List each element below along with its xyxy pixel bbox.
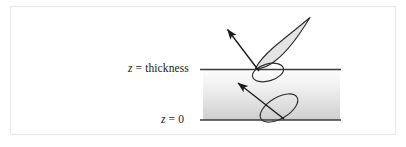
label-z-zero-variable: z — [161, 113, 166, 125]
medium-slab — [203, 70, 340, 121]
figure-container: z = thickness z = 0 — [0, 0, 406, 147]
label-z-zero-operator: = — [169, 113, 176, 125]
label-z-zero-value: 0 — [178, 113, 184, 125]
label-z-thickness-value: thickness — [145, 62, 189, 74]
label-z-thickness-operator: = — [136, 62, 143, 74]
label-z-thickness: z = thickness — [128, 63, 189, 75]
diagram-canvas — [0, 0, 406, 147]
label-z-zero: z = 0 — [161, 114, 184, 126]
